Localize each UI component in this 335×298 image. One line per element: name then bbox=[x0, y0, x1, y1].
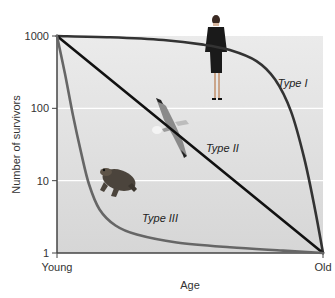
y-tick-label: 1000 bbox=[25, 30, 49, 42]
y-tick-label: 1 bbox=[43, 247, 49, 259]
survivorship-chart: 1000100101YoungOldAgeNumber of survivors… bbox=[0, 0, 335, 298]
annotation-type-ii: Type II bbox=[206, 142, 239, 154]
y-axis-title: Number of survivors bbox=[10, 95, 22, 194]
y-tick-label: 100 bbox=[31, 102, 49, 114]
x-tick-label: Old bbox=[314, 261, 331, 273]
x-axis-title: Age bbox=[180, 279, 200, 291]
x-tick-label: Young bbox=[42, 261, 73, 273]
annotation-type-iii: Type III bbox=[142, 212, 178, 224]
y-tick-label: 10 bbox=[37, 175, 49, 187]
annotation-type-i: Type I bbox=[278, 77, 308, 89]
